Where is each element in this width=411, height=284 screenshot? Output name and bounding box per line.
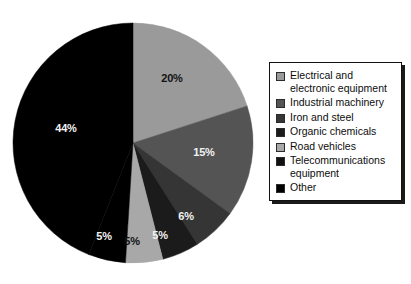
pie-slice-label-organic-chemicals: 5% <box>152 229 168 241</box>
legend-item-road-vehicles[interactable]: Road vehicles <box>276 140 396 153</box>
legend-swatch-icon <box>276 99 285 108</box>
legend-swatch-icon <box>276 184 285 193</box>
legend-item-other[interactable]: Other <box>276 181 396 194</box>
pie-slice-group <box>13 23 253 263</box>
chart-legend: Electrical and electronic equipment Indu… <box>269 62 402 201</box>
legend-item-industrial-machinery[interactable]: Industrial machinery <box>276 96 396 109</box>
pie-slice-label-industrial-machinery: 15% <box>193 146 215 158</box>
pie-slice-label-iron-and-steel: 6% <box>178 210 194 222</box>
legend-item-iron-and-steel[interactable]: Iron and steel <box>276 111 396 124</box>
legend-item-label: Iron and steel <box>290 111 354 124</box>
legend-item-label: Organic chemicals <box>290 125 376 138</box>
legend-item-organic-chemicals[interactable]: Organic chemicals <box>276 125 396 138</box>
pie-slice-label-electrical-and-electronic-equipment: 20% <box>161 72 183 84</box>
legend-item-label: Road vehicles <box>290 140 356 153</box>
legend-item-label: Industrial machinery <box>290 96 384 109</box>
pie-slice-label-other: 44% <box>55 122 77 134</box>
pie-slice-label-road-vehicles: 5% <box>124 235 140 247</box>
legend-item-telecommunications-equipment[interactable]: Telecommunications equipment <box>276 154 396 179</box>
legend-item-label: Other <box>290 181 316 194</box>
pie-chart-figure: 20%15%6%5%5%5%44% Electrical and electro… <box>0 0 411 284</box>
legend-swatch-icon <box>276 128 285 137</box>
legend-item-electrical-and-electronic-equipment[interactable]: Electrical and electronic equipment <box>276 69 396 94</box>
legend-item-label: Telecommunications equipment <box>290 154 385 179</box>
legend-swatch-icon <box>276 114 285 123</box>
pie-chart-svg: 20%15%6%5%5%5%44% <box>0 0 266 284</box>
pie-chart-plot-area: 20%15%6%5%5%5%44% <box>0 0 266 284</box>
legend-swatch-icon <box>276 72 285 81</box>
legend-item-label: Electrical and electronic equipment <box>290 69 387 94</box>
pie-slice-label-telecommunications-equipment: 5% <box>96 230 112 242</box>
legend-swatch-icon <box>276 157 285 166</box>
legend-swatch-icon <box>276 143 285 152</box>
